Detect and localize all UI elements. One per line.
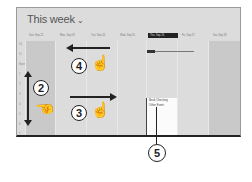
- day-header-thu[interactable]: Thu, Sep 26: [148, 33, 178, 38]
- day-header-tue[interactable]: Tue, Sep 24: [89, 33, 117, 38]
- arrow-head-up-icon: [24, 71, 32, 77]
- chevron-down-icon[interactable]: ⌄: [77, 16, 84, 25]
- hour-label: 5: [19, 113, 20, 116]
- appointment-subtitle: Other Event: [147, 104, 177, 109]
- appointment[interactable]: Book Checking Other Event: [146, 98, 177, 137]
- hour-label: 7: [19, 133, 20, 136]
- view-title[interactable]: This week⌄: [27, 13, 84, 25]
- hour-label: 10: [19, 43, 22, 46]
- callout-5-leader-line: [156, 107, 157, 144]
- all-day-event-line: [155, 51, 194, 52]
- hour-label: 6: [19, 123, 20, 126]
- hour-label: 2: [19, 83, 20, 86]
- arrow-head-down-icon: [24, 120, 32, 126]
- day-header-wed[interactable]: Wed, Sep 25: [118, 33, 146, 38]
- arrow-head-right-icon: [110, 93, 117, 101]
- all-day-event[interactable]: [147, 50, 155, 53]
- day-column-wed[interactable]: [117, 41, 147, 135]
- swipe-right-arrow: [70, 96, 110, 98]
- hand-icon: ☝: [91, 55, 110, 70]
- callout-4: 4: [71, 58, 87, 74]
- day-header-sat[interactable]: Sat, Sep 28: [211, 33, 239, 38]
- day-column-fri[interactable]: [177, 41, 209, 135]
- callout-5: 5: [148, 144, 166, 162]
- hand-pointing-icon: ☝: [37, 99, 52, 118]
- day-header-fri[interactable]: Fri, Sep 27: [180, 33, 208, 38]
- callout-2: 2: [33, 80, 49, 96]
- hour-label: 4: [19, 103, 20, 106]
- callout-3: 3: [71, 105, 87, 121]
- hour-label: 1: [19, 73, 20, 76]
- view-title-label: This week: [27, 13, 75, 25]
- hour-label: 11: [19, 53, 22, 56]
- swipe-left-arrow: [70, 47, 110, 49]
- day-column-mon[interactable]: [55, 41, 87, 135]
- day-header-sun[interactable]: Sun, Sep 22: [27, 33, 55, 38]
- arrow-head-left-icon: [66, 44, 73, 52]
- hand-icon: ☝: [91, 102, 110, 117]
- day-column-sat[interactable]: [208, 41, 241, 135]
- day-header-mon[interactable]: Mon, Sep 23: [58, 33, 86, 38]
- hour-label: 3: [19, 93, 20, 96]
- scroll-vertical-arrow: [27, 75, 29, 121]
